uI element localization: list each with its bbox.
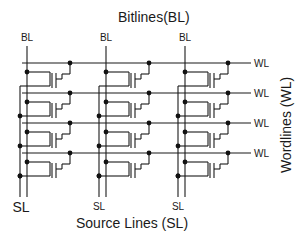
- bitline-label: BL: [100, 32, 113, 43]
- wordline-junction-dot: [226, 151, 231, 156]
- wordline-label: WL: [254, 148, 269, 159]
- wordline-junction-dot: [147, 121, 152, 126]
- sourceline-junction-dot: [176, 114, 181, 119]
- sourceline-junction-dot: [97, 144, 102, 149]
- sourceline-junction-dot: [176, 174, 181, 179]
- wordline-junction-dot: [147, 61, 152, 66]
- source-line-label: SL: [172, 201, 185, 212]
- wordlines-title: Wordlines (WL): [278, 77, 294, 173]
- wordline-label: WL: [254, 88, 269, 99]
- wordline-junction-dot: [147, 91, 152, 96]
- wordline-junction-dot: [226, 121, 231, 126]
- sourceline-junction-dot: [18, 144, 23, 149]
- wordline-junction-dot: [226, 91, 231, 96]
- sourceline-junction-dot: [97, 174, 102, 179]
- wordline-junction-dot: [68, 91, 73, 96]
- bitline-label: BL: [179, 32, 192, 43]
- wordline-junction-dot: [68, 121, 73, 126]
- sourcelines-title: Source Lines (SL): [76, 215, 188, 231]
- wordline-junction-dot: [147, 151, 152, 156]
- source-line-label: SL: [93, 201, 106, 212]
- wordline-junction-dot: [226, 61, 231, 66]
- sourceline-junction-dot: [18, 114, 23, 119]
- sourceline-junction-dot: [97, 114, 102, 119]
- circuit-grid: WLWLWLWLBLSLBLSLBLSL: [12, 32, 269, 215]
- source-line-label: SL: [12, 199, 29, 215]
- sourceline-junction-dot: [18, 174, 23, 179]
- memory-array-diagram: Bitlines(BL) Source Lines (SL) Wordlines…: [0, 0, 300, 237]
- bitlines-title: Bitlines(BL): [118, 9, 190, 25]
- wordline-label: WL: [254, 58, 269, 69]
- wordline-label: WL: [254, 118, 269, 129]
- bitline-label: BL: [21, 32, 34, 43]
- wordline-junction-dot: [68, 61, 73, 66]
- sourceline-junction-dot: [176, 144, 181, 149]
- wordline-junction-dot: [68, 151, 73, 156]
